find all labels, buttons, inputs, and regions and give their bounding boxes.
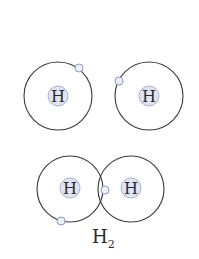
molecule-label: H2 [92,226,115,251]
electron [57,217,65,225]
electron [75,64,83,72]
hydrogen-bond-diagram: H H H H H2 [0,0,199,259]
hydrogen-molecule: H H H2 [37,156,164,251]
atom-symbol: H [142,87,156,106]
atom-symbol: H [51,87,65,106]
shared-electron [101,186,109,194]
electron [115,77,123,85]
atom-symbol: H [124,179,138,198]
atom-symbol: H [63,179,77,198]
hydrogen-atom-right: H [115,62,183,130]
hydrogen-atom-left: H [24,62,92,130]
